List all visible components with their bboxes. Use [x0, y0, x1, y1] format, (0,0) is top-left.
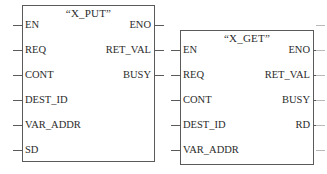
- output-pin-label-x_put-busy: BUSY: [25, 70, 151, 81]
- block-title-x_get: “X_GET”: [180, 33, 314, 44]
- input-pin-label-x_put-dest_id: DEST_ID: [25, 95, 68, 106]
- input-pin-stub-x_get-dest_id[interactable]: [171, 125, 180, 126]
- block-title-x_put: “X_PUT”: [22, 8, 155, 19]
- output-pin-label-x_get-busy: BUSY: [183, 95, 310, 106]
- input-pin-stub-x_get-var_addr[interactable]: [171, 150, 180, 151]
- input-pin-stub-x_put-en[interactable]: [13, 25, 22, 26]
- input-pin-label-x_put-var_addr: VAR_ADDR: [25, 120, 81, 131]
- input-pin-stub-x_put-sd[interactable]: [13, 150, 22, 151]
- stray-connector-mark: [316, 50, 325, 51]
- stray-connector-mark: [316, 125, 325, 126]
- input-pin-stub-x_put-dest_id[interactable]: [13, 100, 22, 101]
- output-pin-label-x_get-ret_val: RET_VAL: [183, 70, 310, 81]
- stray-connector-mark: [316, 100, 325, 101]
- output-pin-label-x_put-eno: ENO: [25, 20, 151, 31]
- input-pin-stub-x_get-en[interactable]: [171, 50, 180, 51]
- output-pin-label-x_get-eno: ENO: [183, 45, 310, 56]
- input-pin-label-x_put-sd: SD: [25, 145, 38, 156]
- input-pin-stub-x_put-var_addr[interactable]: [13, 125, 22, 126]
- output-pin-label-x_get-rd: RD: [183, 120, 310, 131]
- diagram-canvas: “X_PUT”ENREQCONTDEST_IDVAR_ADDRSDENORET_…: [0, 0, 327, 174]
- stray-connector-mark: [316, 75, 325, 76]
- stray-connector-mark: [316, 150, 325, 151]
- input-pin-label-x_get-var_addr: VAR_ADDR: [183, 145, 239, 156]
- input-pin-stub-x_get-cont[interactable]: [171, 100, 180, 101]
- input-pin-stub-x_put-req[interactable]: [13, 50, 22, 51]
- output-pin-stub-x_put-busy[interactable]: [155, 75, 164, 76]
- input-pin-stub-x_put-cont[interactable]: [13, 75, 22, 76]
- stray-connector-mark: [316, 25, 325, 26]
- output-pin-stub-x_put-ret_val[interactable]: [155, 50, 164, 51]
- output-pin-label-x_put-ret_val: RET_VAL: [25, 45, 151, 56]
- output-pin-stub-x_put-eno[interactable]: [155, 25, 164, 26]
- input-pin-stub-x_get-req[interactable]: [171, 75, 180, 76]
